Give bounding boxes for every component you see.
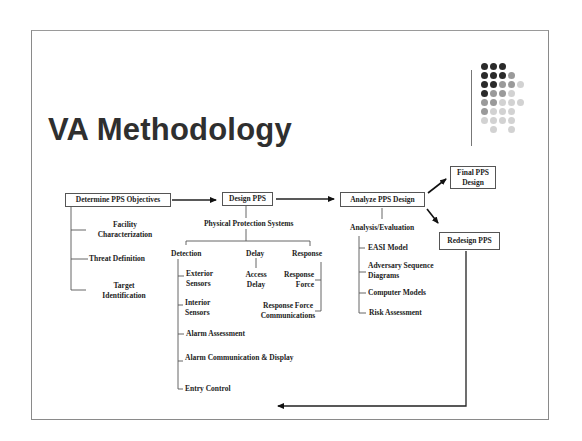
step-determine-objectives: Determine PPS Objectives: [65, 193, 171, 207]
category-detection: Detection: [171, 249, 201, 259]
arrow-analyze-to-redesign: [427, 209, 438, 223]
analysis-adversary-sequence-diagrams: Adversary Sequence Diagrams: [368, 261, 448, 281]
pps-label: Physical Protection Systems: [204, 219, 293, 229]
step-final-pps-design: Final PPS Design: [450, 166, 496, 189]
delay-access-delay: Access Delay: [238, 270, 274, 290]
step-redesign-pps: Redesign PPS: [439, 232, 500, 250]
analysis-computer-models: Computer Models: [368, 288, 426, 298]
analysis-risk-assessment: Risk Assessment: [369, 308, 422, 318]
objectives-bracket: [71, 206, 88, 290]
arrow-analyze-to-final: [428, 179, 446, 193]
detection-interior-sensors: Interior Sensors: [185, 298, 225, 318]
analysis-evaluation-label: Analysis/Evaluation: [350, 223, 414, 233]
category-response: Response: [292, 249, 322, 259]
step-analyze-pps-design: Analyze PPS Design: [340, 192, 425, 207]
category-delay: Delay: [246, 249, 264, 259]
detection-exterior-sensors: Exterior Sensors: [186, 269, 226, 289]
step-design-pps: Design PPS: [222, 192, 273, 206]
detection-alarm-communication-display: Alarm Communication & Display: [185, 353, 295, 363]
detection-entry-control: Entry Control: [185, 384, 231, 394]
objective-facility-characterization: Facility Characterization: [90, 220, 160, 240]
detection-alarm-assessment: Alarm Assessment: [186, 329, 245, 339]
analysis-easi-model: EASI Model: [368, 243, 408, 253]
objective-threat-definition: Threat Definition: [89, 254, 145, 264]
response-force: Response Force: [278, 270, 314, 290]
objective-target-identification: Target Identification: [92, 281, 156, 301]
response-force-communications: Response Force Communications: [258, 301, 318, 321]
